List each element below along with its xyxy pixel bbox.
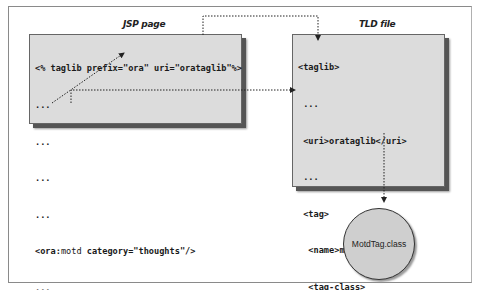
arrow-motd-to-tag (71, 90, 295, 103)
arrow-prefix-to-ora (52, 53, 124, 103)
arrow-uri-to-taglib (203, 16, 318, 40)
connector-arrows (0, 0, 479, 290)
